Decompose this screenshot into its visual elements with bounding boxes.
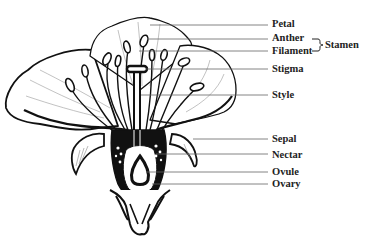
left-sepal (72, 134, 104, 174)
label-sepal: Sepal (272, 134, 297, 145)
label-ovule: Ovule (272, 167, 299, 178)
label-stamen-group: Stamen (325, 40, 359, 51)
label-petal: Petal (272, 19, 295, 30)
right-sepal (170, 134, 197, 166)
label-filament: Filament (272, 46, 312, 57)
pedicel (110, 190, 170, 235)
label-nectar: Nectar (272, 150, 302, 161)
petals (6, 17, 236, 130)
label-anther: Anther (272, 33, 304, 44)
label-stigma: Stigma (272, 64, 304, 75)
stigma (127, 66, 147, 72)
stamen-bracket-icon (312, 39, 323, 51)
label-style: Style (272, 90, 294, 101)
receptacle (111, 130, 166, 200)
flower-diagram (0, 0, 372, 251)
label-ovary: Ovary (272, 179, 301, 190)
